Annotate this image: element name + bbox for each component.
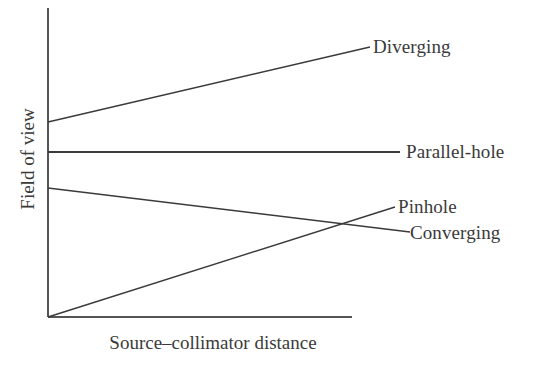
chart-plot-area (0, 0, 541, 367)
series-label-parallel-hole: Parallel-hole (406, 141, 504, 163)
y-axis-label: Field of view (17, 108, 38, 209)
x-axis-label: Source–collimator distance (48, 332, 378, 354)
series-line-converging (48, 207, 395, 317)
series-line-diverging (48, 47, 370, 122)
series-label-converging: Converging (410, 222, 500, 244)
series-line-pinhole (48, 188, 410, 232)
y-axis-label-wrapper: Field of view (17, 79, 39, 239)
chart-figure: Diverging Parallel-hole Pinhole Convergi… (0, 0, 541, 367)
series-label-pinhole: Pinhole (398, 196, 457, 218)
series-label-diverging: Diverging (373, 36, 451, 58)
